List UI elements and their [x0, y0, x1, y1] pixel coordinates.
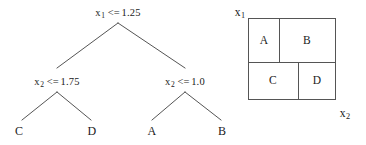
tree-node-root-threshold: 1.25	[121, 7, 140, 18]
partition-axis-label-x2: x2	[340, 108, 351, 122]
tree-node-internal-right: x2<=1.0	[165, 77, 205, 89]
tree-node-root: x1<=1.25	[95, 8, 140, 20]
partition-axis-label-x1-subscript: 1	[241, 12, 246, 21]
tree-edge-left-leaf-c	[22, 92, 57, 120]
partition-square-outline	[249, 19, 336, 100]
partition-region-c: C	[269, 75, 277, 87]
tree-node-internal-left: x2<=1.75	[34, 77, 79, 89]
tree-leaf-c: C	[15, 125, 23, 137]
tree-edge-left-leaf-d	[57, 92, 91, 120]
partition-region-d: D	[313, 75, 322, 87]
decision-tree-partition-figure: x1<=1.25 x2<=1.75 x2<=1.0 C D A B x1 x2 …	[0, 0, 366, 145]
tree-edge-root-right	[118, 23, 185, 68]
tree-leaf-a: A	[148, 125, 157, 137]
tree-node-internal-left-operator: <=	[44, 76, 60, 87]
figure-linework	[0, 0, 366, 145]
tree-leaf-b: B	[218, 125, 226, 137]
tree-node-internal-right-threshold: 1.0	[191, 76, 205, 87]
tree-node-internal-left-threshold: 1.75	[60, 76, 79, 87]
tree-node-root-operator: <=	[105, 7, 121, 18]
partition-region-a: A	[260, 35, 269, 47]
tree-node-internal-right-operator: <=	[175, 76, 191, 87]
partition-region-b: B	[303, 35, 311, 47]
tree-edge-right-leaf-b	[185, 92, 221, 120]
partition-axis-label-x2-subscript: 2	[346, 113, 351, 122]
tree-edge-right-leaf-a	[152, 92, 185, 120]
tree-edge-root-left	[57, 23, 118, 68]
tree-leaf-d: D	[88, 125, 97, 137]
partition-axis-label-x1: x1	[235, 7, 246, 21]
